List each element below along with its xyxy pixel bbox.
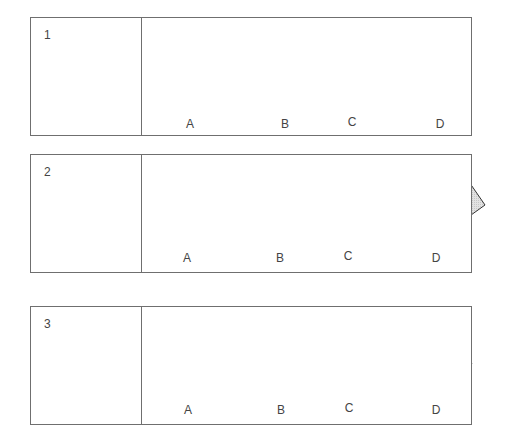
option-label-b[interactable]: B bbox=[276, 251, 284, 265]
option-label-b[interactable]: B bbox=[281, 117, 289, 131]
option-label-a[interactable]: A bbox=[183, 251, 191, 265]
option-label-c[interactable]: C bbox=[345, 401, 354, 415]
question-number: 1 bbox=[44, 28, 51, 42]
option-label-d[interactable]: D bbox=[432, 403, 441, 417]
stem-panel: 1 bbox=[31, 18, 142, 135]
stem-panel: 2 bbox=[31, 155, 142, 272]
option-label-d[interactable]: D bbox=[436, 117, 445, 131]
question-row-2: 2 bbox=[30, 154, 472, 273]
option-label-c[interactable]: C bbox=[348, 115, 357, 129]
question-number: 3 bbox=[44, 317, 51, 331]
option-label-b[interactable]: B bbox=[277, 403, 285, 417]
option-label-a[interactable]: A bbox=[184, 403, 192, 417]
stem-panel: 3 bbox=[31, 307, 142, 424]
option-label-a[interactable]: A bbox=[186, 117, 194, 131]
question-number: 2 bbox=[44, 165, 51, 179]
question-row-1: 1 bbox=[30, 17, 472, 136]
question-row-3: 3 bbox=[30, 306, 472, 425]
option-label-c[interactable]: C bbox=[344, 249, 353, 263]
option-label-d[interactable]: D bbox=[432, 251, 441, 265]
